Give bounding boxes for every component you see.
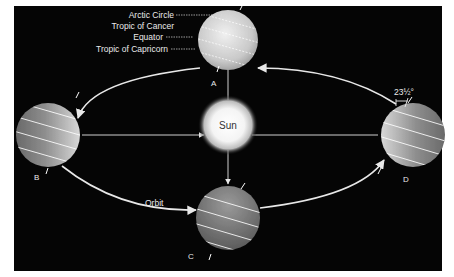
- orbit-label: Orbit: [145, 198, 164, 208]
- sun: Sun: [198, 95, 258, 155]
- position-label-d: D: [403, 175, 409, 184]
- seasons-diagram: Sun A Arctic Circle Tropic of Cancer Equ…: [0, 0, 454, 277]
- position-label-a: A: [211, 79, 217, 88]
- sun-label: Sun: [219, 120, 237, 131]
- tropic-of-cancer-label: Tropic of Cancer: [111, 21, 174, 31]
- tilt-angle-label: 23½°: [394, 87, 414, 97]
- equator-label: Equator: [133, 32, 163, 42]
- position-label-b: B: [34, 173, 39, 182]
- position-label-c: C: [188, 252, 194, 261]
- tropic-of-capricorn-label: Tropic of Capricorn: [96, 44, 168, 54]
- arctic-circle-label: Arctic Circle: [129, 10, 175, 20]
